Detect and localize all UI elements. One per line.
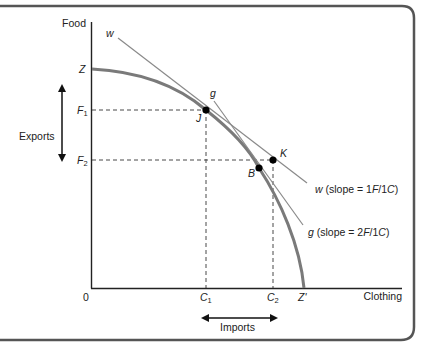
point-J [202, 106, 209, 113]
label-w: w [106, 27, 115, 39]
ppf-curve [92, 69, 304, 288]
world-price-line-w [118, 38, 307, 183]
ppf-diagram: Food Clothing 0 Z F1 F2 C1 C2 Z' J K B w… [0, 0, 423, 343]
exports-label: Exports [19, 130, 55, 142]
tick-Zprime: Z' [297, 291, 307, 303]
imports-label: Imports [220, 321, 255, 333]
label-g: g [210, 87, 216, 99]
tick-F1: F1 [77, 104, 88, 118]
x-axis-label: Clothing [363, 290, 402, 302]
point-K [269, 156, 276, 163]
origin-label: 0 [83, 291, 89, 303]
label-B: B [248, 167, 255, 179]
legend-w: w (slope = 1F/1C) [315, 183, 398, 195]
tick-F2: F2 [77, 154, 88, 168]
legend-g: g (slope = 2F/1C) [308, 226, 389, 238]
label-K: K [280, 147, 288, 159]
y-axis-label: Food [62, 17, 86, 29]
tick-C1: C1 [200, 291, 212, 305]
axes [91, 22, 402, 289]
point-B [255, 164, 262, 171]
frame-border [0, 6, 414, 340]
label-J: J [195, 112, 202, 124]
tick-Z: Z [78, 63, 86, 75]
tick-C2: C2 [267, 291, 279, 305]
domestic-price-line-g [214, 101, 303, 225]
